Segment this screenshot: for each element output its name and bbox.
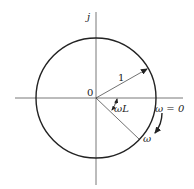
direction-arrow: [155, 113, 162, 133]
omega-zero-label: ω = 0: [155, 103, 185, 114]
omega-label: ω: [143, 133, 151, 144]
angle-label: ωL: [114, 103, 129, 114]
imaginary-axis-label: j: [85, 11, 90, 22]
origin-label: 0: [87, 87, 93, 98]
nyquist-circle-diagram: j 0 1 ωL ω = 0 ω: [0, 0, 194, 189]
radius-label: 1: [118, 72, 124, 83]
